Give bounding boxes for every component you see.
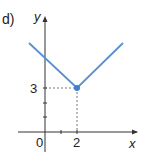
- y-tick-label: 3: [30, 82, 37, 95]
- x-axis-label: x: [129, 137, 136, 150]
- origin-label: 0: [36, 136, 43, 149]
- y-axis-label: y: [34, 10, 41, 23]
- v-graph-line: [29, 43, 123, 88]
- x-tick-label: 2: [73, 136, 80, 149]
- x-axis-arrow-icon: [132, 130, 138, 135]
- vertex-point: [74, 85, 80, 91]
- y-axis-arrow-icon: [43, 16, 48, 22]
